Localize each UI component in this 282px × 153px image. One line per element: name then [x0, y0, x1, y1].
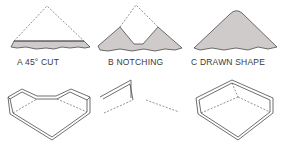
panel-b-dashed-removed: [120, 5, 158, 27]
corner-forming-diagram: [0, 0, 282, 153]
panel-c-material: [194, 11, 277, 50]
formed-corner-c: [196, 80, 273, 140]
panel-a-blank: [11, 6, 90, 49]
panel-b-label: B NOTCHING: [108, 57, 163, 67]
panel-b-blank: [98, 5, 182, 51]
formed-corner-a: [8, 89, 90, 140]
panel-c-blank: [194, 11, 277, 50]
panel-a-label: A 45° CUT: [17, 57, 59, 67]
formed-corner-b: [100, 80, 179, 113]
panel-a-dashed-removed: [14, 6, 84, 41]
panel-b-material: [98, 27, 182, 51]
panel-a-material: [11, 41, 90, 49]
panel-c-label: C DRAWN SHAPE: [191, 57, 265, 67]
